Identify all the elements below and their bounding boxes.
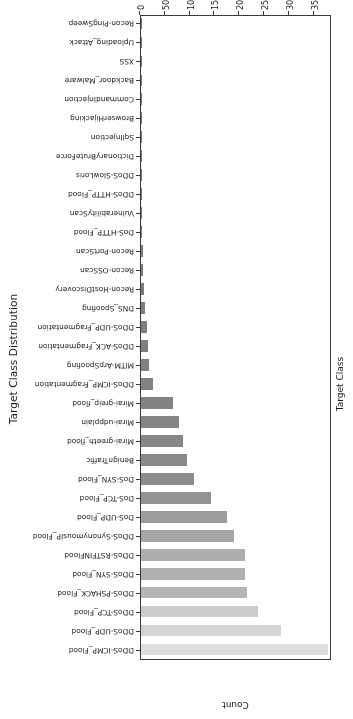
y-tick-label: XSS [120,58,134,67]
bar [141,340,148,352]
y-tick-label: DoS-TCP_Flood [80,494,134,503]
bar [141,378,153,390]
y-tick [136,593,140,594]
y-tick [136,365,140,366]
x-tick-label: 25000 [261,0,270,10]
y-tick [136,194,140,195]
bar [141,359,149,371]
bar [141,606,258,618]
bar [141,75,142,87]
y-tick-label: Mirai-greeth_flood [67,437,134,446]
y-tick [136,156,140,157]
bar [141,530,234,542]
bar [141,568,245,580]
y-tick [136,24,140,25]
y-tick [136,574,140,575]
y-axis-ticks: DDoS-ICMP_FloodDDoS-UDP_FloodDDoS-TCP_Fl… [0,15,140,660]
y-tick [136,631,140,632]
y-tick [136,327,140,328]
y-tick-label: MITM-ArpSpoofing [67,361,134,370]
y-tick-label: DoS-SYN_Flood [78,475,134,484]
bar [141,56,142,68]
y-tick-label: Recon-OSScan [80,267,134,276]
bar [141,94,142,106]
bar [141,188,142,200]
bar [141,245,143,257]
y-tick-label: DDoS-ICMP_Flood [69,646,134,655]
y-tick [136,498,140,499]
bar-series [141,16,330,659]
y-tick [136,650,140,651]
x-tick [263,11,264,15]
bar [141,112,142,124]
y-tick-label: DDoS-ACK_Fragmentation [38,343,134,352]
x-tick-label: 5000 [162,0,171,10]
y-tick [136,479,140,480]
bar [141,644,328,656]
y-tick [136,422,140,423]
y-tick-label: Recon-PortScan [76,248,134,257]
y-tick-label: DDoS-PSHACK_Flood [57,589,134,598]
y-tick-label: VulnerabilityScan [70,210,134,219]
y-tick-label: DDoS-UDP_Fragmentation [38,324,135,333]
x-tick-label: 20000 [236,0,245,10]
bar [141,435,183,447]
y-tick [136,308,140,309]
y-tick [136,99,140,100]
x-tick [213,11,214,15]
y-tick-label: Recon-PingSweep [68,20,134,29]
y-tick-label: Uploading_Attack [69,39,134,48]
y-tick [136,270,140,271]
y-tick [136,612,140,613]
y-tick [136,460,140,461]
bar [141,492,211,504]
y-tick-label: DDoS-HTTP_Flood [68,191,134,200]
y-tick-label: DictionaryBruteForce [56,153,134,162]
y-tick [136,80,140,81]
y-tick-label: CommandInjection [64,96,134,105]
y-axis-label: Target Class [329,329,351,439]
y-tick-label: Mirai-udpplain [81,418,134,427]
bar [141,473,194,485]
bar [141,283,144,295]
y-tick-label: DoS-UDP_Flood [77,513,134,522]
bar [141,226,142,238]
x-tick-label: 35000 [311,0,320,10]
y-tick [136,441,140,442]
y-tick-label: DDoS-SynonymousIP_Flood [33,532,134,541]
y-tick-label: SqlInjection [91,134,134,143]
y-tick-label: Recon-HostDiscovery [55,286,134,295]
x-axis-label: Count [140,699,331,711]
bar-chart-figure: Target Class Distribution Target Class C… [0,0,353,719]
y-tick [136,213,140,214]
y-tick [136,137,140,138]
bar [141,302,145,314]
x-tick [288,11,289,15]
x-axis-ticks: 05000100001500020000250003000035000 [140,0,331,15]
x-tick-label: 0 [137,5,146,10]
y-tick [136,175,140,176]
x-tick [189,11,190,15]
bar [141,625,281,637]
bar [141,321,147,333]
bar [141,549,245,561]
plot-area [140,15,331,660]
y-tick [136,232,140,233]
y-tick [136,517,140,518]
figure-rotation-wrapper: Target Class Distribution Target Class C… [0,0,353,719]
bar [141,150,142,162]
bar [141,397,173,409]
bar [141,264,143,276]
x-tick-label: 10000 [187,0,196,10]
y-tick-label: BrowserHijacking [70,115,134,124]
y-axis-label-text: Target Class [335,357,345,411]
x-tick [313,11,314,15]
y-tick-label: DDoS-SYN_Flood [72,570,134,579]
bar [141,18,142,30]
y-tick [136,384,140,385]
y-tick-label: DDoS-TCP_Flood [74,608,134,617]
y-tick-label: Mirai-greip_flood [72,399,134,408]
y-tick-label: DDoS-UDP_Flood [71,627,134,636]
y-tick-label: Backdoor_Malware [65,77,134,86]
y-tick [136,61,140,62]
